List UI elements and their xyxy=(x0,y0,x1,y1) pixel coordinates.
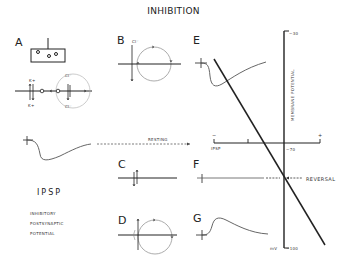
panel-d-diagram xyxy=(118,219,177,254)
inhibition-diagram xyxy=(0,0,347,265)
panel-g-trace xyxy=(196,218,268,240)
panel-b-diagram xyxy=(118,45,181,81)
ipsp-trace xyxy=(23,136,91,160)
panel-c-diagram xyxy=(118,170,177,186)
panel-a-current-diagram xyxy=(15,74,92,108)
resting-arrow xyxy=(97,143,190,146)
panel-a-cell xyxy=(31,38,65,62)
membrane-potential-axes xyxy=(214,31,320,248)
reversal-line xyxy=(214,59,325,245)
panel-e-trace xyxy=(195,58,266,86)
